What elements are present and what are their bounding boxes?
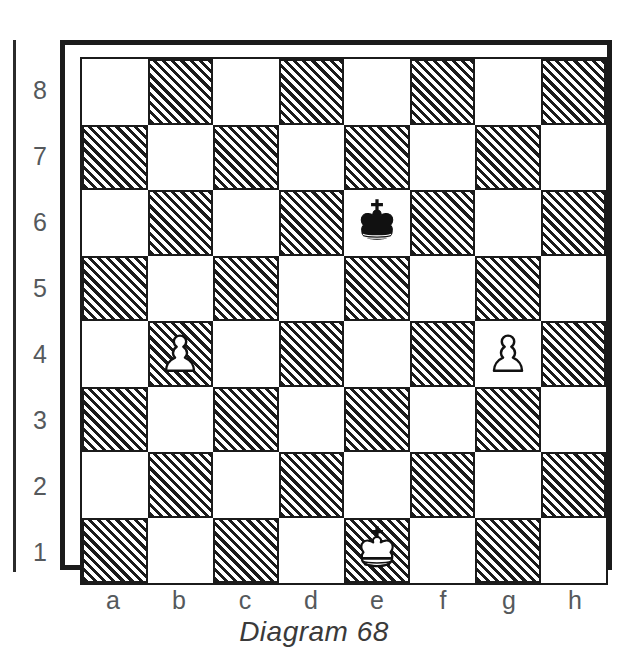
file-label-e: e	[344, 583, 410, 617]
file-label-c: c	[212, 583, 278, 617]
square-e4[interactable]	[344, 321, 410, 387]
square-g2[interactable]	[475, 452, 541, 518]
file-label-f: f	[410, 583, 476, 617]
square-h3[interactable]	[541, 387, 607, 453]
square-b4[interactable]	[148, 321, 214, 387]
square-a3[interactable]	[82, 387, 148, 453]
square-h4[interactable]	[541, 321, 607, 387]
diagram-caption: Diagram 68	[0, 616, 628, 648]
square-e3[interactable]	[344, 387, 410, 453]
white-king-e1[interactable]	[349, 522, 405, 578]
square-a6[interactable]	[82, 190, 148, 256]
file-label-h: h	[542, 583, 608, 617]
square-c5[interactable]	[213, 256, 279, 322]
square-e8[interactable]	[344, 59, 410, 125]
square-f8[interactable]	[410, 59, 476, 125]
rank-label-8: 8	[22, 57, 58, 123]
square-g7[interactable]	[475, 125, 541, 191]
square-b7[interactable]	[148, 125, 214, 191]
square-f1[interactable]	[410, 518, 476, 584]
white-pawn-g4[interactable]	[480, 326, 536, 382]
square-d1[interactable]	[279, 518, 345, 584]
square-g5[interactable]	[475, 256, 541, 322]
rank-labels: 8 7 6 5 4 3 2 1	[22, 57, 58, 585]
square-c1[interactable]	[213, 518, 279, 584]
file-label-b: b	[146, 583, 212, 617]
square-c7[interactable]	[213, 125, 279, 191]
square-a5[interactable]	[82, 256, 148, 322]
square-e2[interactable]	[344, 452, 410, 518]
square-d8[interactable]	[279, 59, 345, 125]
square-g3[interactable]	[475, 387, 541, 453]
file-labels: a b c d e f g h	[80, 583, 608, 617]
square-c6[interactable]	[213, 190, 279, 256]
square-d7[interactable]	[279, 125, 345, 191]
square-f6[interactable]	[410, 190, 476, 256]
square-h2[interactable]	[541, 452, 607, 518]
rank-label-5: 5	[22, 255, 58, 321]
square-f3[interactable]	[410, 387, 476, 453]
rank-label-3: 3	[22, 387, 58, 453]
square-d2[interactable]	[279, 452, 345, 518]
square-b5[interactable]	[148, 256, 214, 322]
square-b3[interactable]	[148, 387, 214, 453]
square-d6[interactable]	[279, 190, 345, 256]
square-d4[interactable]	[279, 321, 345, 387]
square-h7[interactable]	[541, 125, 607, 191]
square-a7[interactable]	[82, 125, 148, 191]
file-label-a: a	[80, 583, 146, 617]
square-b6[interactable]	[148, 190, 214, 256]
square-a4[interactable]	[82, 321, 148, 387]
square-f4[interactable]	[410, 321, 476, 387]
square-b8[interactable]	[148, 59, 214, 125]
rank-label-4: 4	[22, 321, 58, 387]
square-h6[interactable]	[541, 190, 607, 256]
rank-label-1: 1	[22, 519, 58, 585]
square-c2[interactable]	[213, 452, 279, 518]
file-label-d: d	[278, 583, 344, 617]
square-b1[interactable]	[148, 518, 214, 584]
square-g6[interactable]	[475, 190, 541, 256]
square-f2[interactable]	[410, 452, 476, 518]
left-margin-rule	[13, 40, 16, 572]
rank-label-2: 2	[22, 453, 58, 519]
square-a1[interactable]	[82, 518, 148, 584]
square-h8[interactable]	[541, 59, 607, 125]
square-c4[interactable]	[213, 321, 279, 387]
square-e7[interactable]	[344, 125, 410, 191]
chessboard[interactable]	[80, 57, 608, 585]
square-g4[interactable]	[475, 321, 541, 387]
square-h1[interactable]	[541, 518, 607, 584]
square-a8[interactable]	[82, 59, 148, 125]
square-c8[interactable]	[213, 59, 279, 125]
rank-label-7: 7	[22, 123, 58, 189]
square-e5[interactable]	[344, 256, 410, 322]
square-h5[interactable]	[541, 256, 607, 322]
square-f7[interactable]	[410, 125, 476, 191]
square-f5[interactable]	[410, 256, 476, 322]
square-e1[interactable]	[344, 518, 410, 584]
square-g1[interactable]	[475, 518, 541, 584]
square-d3[interactable]	[279, 387, 345, 453]
black-king-e6[interactable]	[349, 195, 405, 251]
square-g8[interactable]	[475, 59, 541, 125]
square-b2[interactable]	[148, 452, 214, 518]
square-d5[interactable]	[279, 256, 345, 322]
square-e6[interactable]	[344, 190, 410, 256]
white-pawn-b4[interactable]	[152, 326, 208, 382]
square-c3[interactable]	[213, 387, 279, 453]
square-a2[interactable]	[82, 452, 148, 518]
rank-label-6: 6	[22, 189, 58, 255]
file-label-g: g	[476, 583, 542, 617]
